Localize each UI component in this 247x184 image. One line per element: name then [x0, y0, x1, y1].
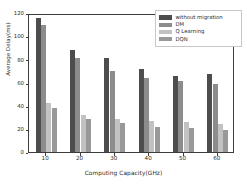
bar: [184, 122, 189, 152]
bar: [104, 58, 109, 152]
bar: [36, 18, 41, 152]
x-tick-label: 40: [136, 156, 160, 162]
legend-label: without migration: [176, 15, 223, 20]
bar: [115, 119, 120, 152]
bar: [144, 78, 149, 152]
bar: [110, 71, 115, 152]
x-tick-label: 10: [33, 156, 57, 162]
bar: [189, 128, 194, 152]
y-tick-label: 80: [2, 58, 24, 63]
legend-swatch-icon: [159, 37, 172, 41]
y-tick-label: 0: [2, 150, 24, 155]
legend-item: Q Learning: [159, 28, 239, 35]
bar: [149, 121, 154, 152]
bar: [213, 84, 218, 152]
x-tick-label: 20: [68, 156, 92, 162]
y-tick-label: 20: [2, 127, 24, 132]
bar: [75, 58, 80, 152]
bar: [120, 123, 125, 152]
bar: [41, 25, 46, 152]
y-tick-label: 100: [2, 34, 24, 39]
bar: [207, 74, 212, 152]
y-axis-label: Average Delay(ms): [5, 9, 11, 89]
legend-swatch-icon: [159, 15, 172, 19]
bar: [155, 127, 160, 152]
bar-chart-figure: Average Delay(ms) 020406080100120 102030…: [0, 0, 247, 184]
bar: [178, 81, 183, 152]
x-tick-label: 50: [171, 156, 195, 162]
legend-item: without migration: [159, 14, 239, 21]
legend-label: Q Learning: [176, 29, 205, 34]
bar: [173, 76, 178, 152]
y-tick-mark: [26, 153, 29, 154]
x-axis-label: Computing Capacity(GHz): [0, 170, 247, 176]
bar: [70, 50, 75, 152]
y-tick-label: 40: [2, 104, 24, 109]
x-tick-label: 30: [102, 156, 126, 162]
legend-swatch-icon: [159, 30, 172, 34]
y-tick-label: 60: [2, 81, 24, 86]
legend-label: DM: [176, 22, 185, 27]
bar: [46, 103, 51, 152]
legend-label: DQN: [176, 37, 188, 42]
legend-swatch-icon: [159, 23, 172, 27]
x-tick-label: 60: [205, 156, 229, 162]
bar: [223, 130, 228, 152]
legend: without migrationDMQ LearningDQN: [155, 10, 242, 47]
bar: [86, 119, 91, 152]
bar: [52, 108, 57, 152]
legend-item: DQN: [159, 36, 239, 43]
bar: [81, 115, 86, 152]
bar: [218, 124, 223, 152]
y-tick-label: 120: [2, 11, 24, 16]
bar: [139, 69, 144, 152]
legend-item: DM: [159, 21, 239, 28]
